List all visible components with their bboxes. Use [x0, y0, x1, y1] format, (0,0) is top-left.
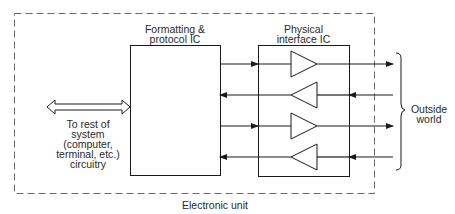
signal-line-2-in [220, 82, 393, 108]
formatting-ic-label: Formatting & protocol IC [130, 24, 220, 44]
formatting-ic-label-line2: protocol IC [130, 34, 220, 44]
driver-triangle-icon [291, 113, 317, 139]
system-link-label-line5: circuitry [50, 159, 126, 169]
electronic-unit-label: Electronic unit [165, 200, 265, 210]
signal-line-1-out [220, 51, 393, 77]
block-diagram [0, 0, 455, 214]
formatting-protocol-ic-box [131, 46, 221, 176]
driver-triangle-icon [291, 51, 317, 77]
physical-ic-label: Physical interface IC [258, 24, 349, 44]
system-link-label: To rest of system (computer, terminal, e… [50, 119, 126, 169]
signal-line-3-out [220, 113, 393, 139]
receiver-triangle-icon [291, 144, 317, 170]
outside-world-brace-icon [396, 53, 405, 170]
physical-ic-label-line2: interface IC [258, 34, 349, 44]
outside-world-label-line2: world [405, 114, 453, 124]
outside-world-label: Outside world [405, 104, 453, 124]
signal-line-4-in [220, 144, 393, 170]
bidirectional-arrow-icon [47, 100, 130, 114]
receiver-triangle-icon [291, 82, 317, 108]
